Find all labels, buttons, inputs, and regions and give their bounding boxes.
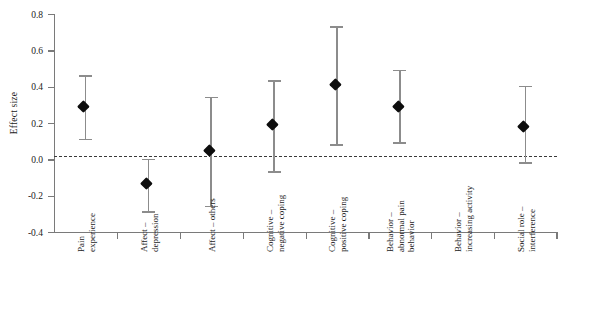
y-axis-tick: 0.6 [48,50,54,51]
x-axis-category-label-line: positive coping [338,197,349,252]
y-axis-tick-label: -0.4 [28,228,43,238]
y-axis-title: Effect size [9,63,19,163]
x-axis-tick [494,232,495,239]
x-axis-category-label-line: Behavior – [385,200,396,252]
error-bar-upper-cap [330,26,343,28]
y-axis-tick: 0.8 [48,14,54,15]
y-axis-tick: -0.2 [48,196,54,197]
x-axis-tick [180,232,181,239]
error-bar-lower-cap [330,144,343,146]
x-axis-category-label-line: Cognitive – [327,197,338,252]
effect-size-marker[interactable] [518,120,530,132]
error-bar-upper-cap [268,80,281,82]
y-axis-tick-label: -0.2 [28,191,43,201]
error-bar-lower-cap [79,139,92,141]
x-axis-category-label-line: negative coping [275,195,286,252]
y-axis-tick: 0.4 [48,87,54,88]
x-axis-category-label-text: Affect – others [207,198,218,252]
y-axis-line [54,14,55,232]
x-axis-category-label-text: Social role –interference [516,207,537,253]
y-axis-tick: 0.0 [48,159,54,160]
x-axis-category-label-text: Cognitive –positive coping [327,197,348,252]
x-axis-tick [243,232,244,239]
effect-size-marker[interactable] [140,177,152,189]
x-axis-category-label-line: depression [149,214,160,253]
x-axis-category-label-line: Behavior – [453,186,464,252]
x-axis-category-label-text: Behavior –increasing activity [453,186,474,252]
y-axis-tick-label: 0.4 [31,82,43,92]
x-axis-category-label-line: abnormal pain [396,200,407,252]
y-axis-tick-label: 0.8 [31,10,43,20]
x-axis-tick [557,232,558,239]
plot-area: 0.80.60.40.20.0-0.2-0.4 PainexperienceAf… [54,14,557,232]
y-axis-tick-label: 0.0 [31,155,43,165]
x-axis-category-label-text: Painexperience [76,213,97,252]
x-axis-category-label-line: behavior [406,200,417,252]
x-axis-category-label-line: Social role – [516,207,527,253]
error-bar-upper-cap [205,97,218,99]
effect-size-marker[interactable] [266,119,278,131]
x-axis-category-label-line: experience [86,213,97,252]
y-axis-tick: 0.2 [48,123,54,124]
effect-size-marker[interactable] [392,100,404,112]
error-bar-upper-cap [519,86,532,88]
x-axis-category-label-text: Cognitive –negative coping [265,195,286,252]
x-axis-category-label-line: Cognitive – [265,195,276,252]
zero-reference-line [54,156,557,157]
x-axis-tick [306,232,307,239]
y-axis-tick-label: 0.2 [31,119,43,129]
x-axis-category-label-line: increasing activity [464,186,475,252]
error-bar-upper-cap [142,159,155,161]
error-bar-upper-cap [79,75,92,77]
y-axis-tick: -0.4 [48,232,54,233]
error-bar-lower-cap [393,142,406,144]
y-axis-tick-label: 0.6 [31,46,43,56]
error-bar-lower-cap [519,162,532,164]
x-axis-category-label-line: Pain [76,213,87,252]
x-axis-tick [117,232,118,239]
x-axis-tick [368,232,369,239]
effect-size-marker[interactable] [77,100,89,112]
x-axis-tick [431,232,432,239]
x-axis-category-label-line: Affect – others [207,198,218,252]
error-bar-upper-cap [393,70,406,72]
x-axis-category-label-line: Affect – [139,214,150,253]
effect-size-forest-plot: Effect size 0.80.60.40.20.0-0.2-0.4 Pain… [0,0,595,322]
effect-size-marker[interactable] [329,79,341,91]
x-axis-category-label-line: interference [527,207,538,253]
x-axis-category-label-text: Behavior –abnormal painbehavior [385,200,417,252]
x-axis-category-label-text: Affect –depression [139,214,160,253]
effect-size-marker[interactable] [203,144,215,156]
error-bar-lower-cap [268,171,281,173]
